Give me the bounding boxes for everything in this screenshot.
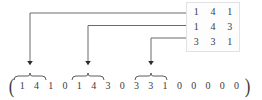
figure-canvas: 1 4 1 1 4 3 3 3 1 ( 1 <box>0 0 262 100</box>
vector-close-paren: ) <box>244 76 250 97</box>
vector-entry-16: 0 <box>229 81 243 91</box>
vector-entry-13: 0 <box>187 81 201 91</box>
vector-entry-8: 0 <box>115 81 129 91</box>
arrow-row-3 <box>151 38 186 63</box>
arrow-row-2 <box>88 26 186 64</box>
vector-entry-6: 4 <box>86 81 100 91</box>
vector-entry-1: 1 <box>15 81 29 91</box>
vector-entry-4: 0 <box>58 81 72 91</box>
vector-entry-11: 1 <box>158 81 172 91</box>
vector-entry-9: 3 <box>129 81 143 91</box>
vector-entry-7: 3 <box>101 81 115 91</box>
vector-entry-3: 1 <box>44 81 58 91</box>
vector-entry-14: 0 <box>201 81 215 91</box>
vector-entry-2: 4 <box>29 81 43 91</box>
vector-entry-5: 1 <box>72 81 86 91</box>
vector-entry-15: 0 <box>215 81 229 91</box>
vector-entries: 1 4 1 0 1 4 3 0 3 3 1 0 0 0 0 0 <box>15 81 244 91</box>
vector-open-paren: ( <box>9 76 15 97</box>
vector-row: ( 1 4 1 0 1 4 3 0 3 3 1 0 0 0 0 0 ) <box>8 76 256 96</box>
vector-entry-12: 0 <box>172 81 186 91</box>
vector-entry-10: 3 <box>144 81 158 91</box>
